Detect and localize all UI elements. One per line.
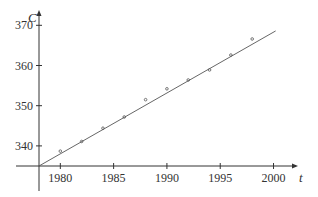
data-points — [59, 38, 253, 153]
y-tick-label: 340 — [15, 139, 33, 153]
data-point — [251, 38, 254, 41]
data-point — [166, 88, 169, 91]
data-point — [59, 150, 62, 153]
x-tick-label: 1985 — [102, 171, 126, 185]
x-tick-label: 1995 — [208, 171, 232, 185]
co2-scatter-chart: 19801985199019952000340350360370 C t — [0, 0, 318, 197]
data-point — [102, 127, 105, 130]
y-tick-label: 360 — [15, 59, 33, 73]
x-tick-label: 2000 — [262, 171, 286, 185]
data-point — [187, 79, 190, 82]
data-point — [230, 54, 233, 57]
y-axis-label: C — [28, 10, 37, 25]
data-point — [208, 69, 211, 72]
x-tick-label: 1980 — [48, 171, 72, 185]
fit-line — [39, 31, 276, 166]
axis-labels: C t — [28, 10, 303, 185]
x-axis-arrow-icon — [292, 164, 298, 169]
y-tick-label: 350 — [15, 99, 33, 113]
regression-line — [39, 31, 276, 166]
data-point — [144, 98, 147, 101]
plot-area: 19801985199019952000340350360370 C t — [0, 0, 318, 197]
axes: 19801985199019952000340350360370 — [15, 10, 298, 191]
y-axis-arrow-icon — [37, 10, 42, 16]
x-tick-label: 1990 — [155, 171, 179, 185]
x-axis-label: t — [299, 170, 303, 185]
